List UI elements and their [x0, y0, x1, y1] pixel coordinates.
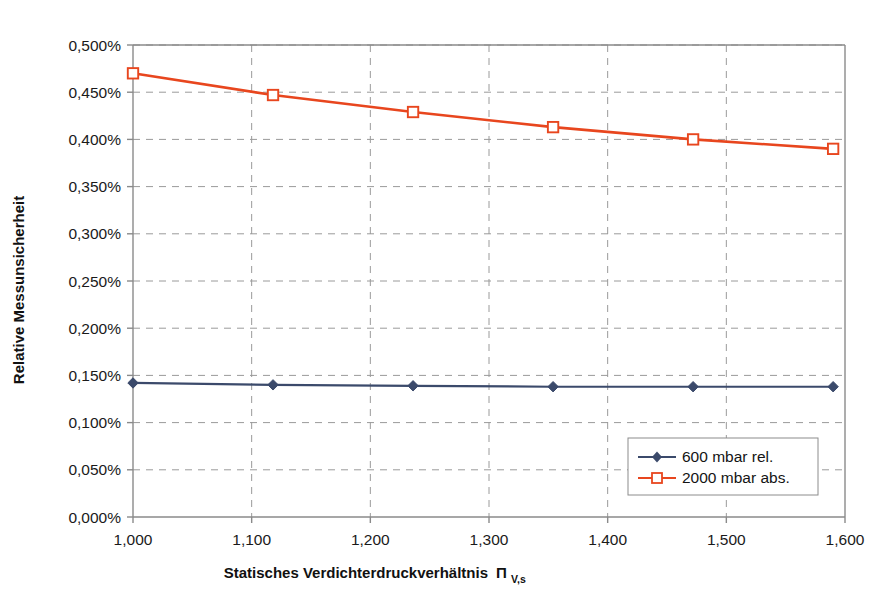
data-point-marker: [128, 68, 138, 78]
x-axis-tick-label: 1,400: [588, 531, 627, 548]
y-axis-tick-label: 0,450%: [68, 84, 121, 101]
y-axis-title: Relative Messunsicherheit: [10, 196, 27, 384]
data-point-marker: [688, 134, 698, 144]
y-axis-title-text: Relative Messunsicherheit: [10, 196, 27, 384]
y-axis-tick-label: 0,150%: [68, 367, 121, 384]
y-axis-tick-label: 0,300%: [68, 225, 121, 242]
x-axis-tick-label: 1,100: [232, 531, 271, 548]
chart-canvas: 0,000%0,050%0,100%0,150%0,200%0,250%0,30…: [0, 0, 880, 608]
x-axis-tick-label: 1,000: [114, 531, 153, 548]
x-axis-tick-label: 1,600: [826, 531, 865, 548]
x-axis-title-subscript: V,s: [511, 573, 526, 585]
y-axis-tick-label: 0,100%: [68, 414, 121, 431]
x-axis-tick-label: 1,500: [707, 531, 746, 548]
data-point-marker: [548, 122, 558, 132]
legend-box: [628, 438, 818, 495]
y-axis-tick-label: 0,250%: [68, 273, 121, 290]
y-axis-tick-label: 0,400%: [68, 131, 121, 148]
y-axis-tick-label: 0,200%: [68, 320, 121, 337]
y-axis-tick-label: 0,000%: [68, 509, 121, 526]
data-point-marker: [408, 107, 418, 117]
data-point-marker: [828, 144, 838, 154]
x-axis-title-symbol: Π: [496, 564, 507, 581]
y-axis-tick-label: 0,050%: [68, 461, 121, 478]
legend-label-series-1: 600 mbar rel.: [682, 448, 773, 465]
x-axis-tick-label: 1,300: [470, 531, 509, 548]
chart-legend[interactable]: 600 mbar rel. 2000 mbar abs.: [628, 438, 818, 495]
x-axis-title-text: Statisches Verdichterdruckverhältnis: [224, 564, 488, 581]
y-axis-tick-label: 0,350%: [68, 178, 121, 195]
x-axis-tick-label: 1,200: [351, 531, 390, 548]
data-point-marker: [268, 90, 278, 100]
chart-figure: 0,000%0,050%0,100%0,150%0,200%0,250%0,30…: [0, 0, 880, 608]
open-square-icon: [652, 473, 662, 483]
y-axis-tick-label: 0,500%: [68, 37, 121, 54]
legend-label-series-2: 2000 mbar abs.: [682, 469, 790, 486]
